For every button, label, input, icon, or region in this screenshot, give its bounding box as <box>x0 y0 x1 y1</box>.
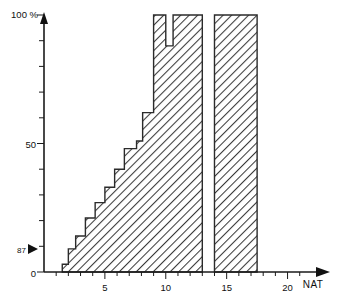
y-axis-labels: 100 % 50 87 0 <box>11 9 38 279</box>
y-axis-top-label: 100 % <box>11 9 38 20</box>
x-axis-labels: 5101520 <box>102 282 293 293</box>
cumulative-step-chart: 100 % 50 87 0 5101520 NAT <box>0 0 347 300</box>
y-axis-ticks <box>37 15 44 272</box>
x-axis-tick-label: 5 <box>102 282 107 293</box>
chart-svg: 100 % 50 87 0 5101520 NAT <box>0 0 347 300</box>
y-axis-marker-pointer-icon <box>28 244 38 254</box>
y-axis-arrow-icon <box>40 12 48 24</box>
y-axis <box>37 12 48 272</box>
x-axis-tick-label: 15 <box>221 282 232 293</box>
x-axis-arrow-icon <box>316 267 330 277</box>
y-axis-zero-label: 0 <box>31 268 36 279</box>
y-axis-mid-label: 50 <box>25 139 36 150</box>
plot-area <box>62 15 257 272</box>
x-axis-ticks <box>56 272 300 279</box>
x-axis-title: NAT <box>303 279 323 290</box>
second-block-region <box>214 15 257 272</box>
cumulative-step-region <box>62 15 202 272</box>
x-axis-tick-label: 10 <box>160 282 171 293</box>
y-axis-marker-label: 87 <box>17 246 26 255</box>
x-axis-tick-label: 20 <box>282 282 293 293</box>
